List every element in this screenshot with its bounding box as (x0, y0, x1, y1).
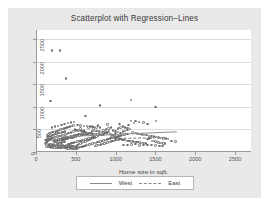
y-tick-label: 0 (30, 152, 36, 155)
y-tick-label: 1000 (39, 107, 45, 119)
data-point (92, 126, 94, 128)
y-tick-label: 1500 (39, 84, 45, 96)
data-point (70, 131, 72, 133)
x-tick (36, 152, 37, 155)
data-point (99, 104, 101, 106)
data-point (167, 138, 169, 140)
data-point (150, 144, 152, 146)
data-point (106, 123, 108, 125)
x-tick (235, 152, 236, 155)
gridline (37, 129, 251, 130)
x-tick (155, 152, 156, 155)
data-point (51, 131, 53, 133)
gridline (37, 84, 251, 85)
data-point (65, 77, 67, 79)
data-point (72, 130, 74, 132)
data-point (133, 122, 135, 124)
data-point (81, 132, 83, 134)
data-point (174, 140, 176, 142)
data-point (83, 125, 85, 127)
data-point (59, 49, 61, 51)
data-point (134, 120, 136, 122)
chart-title: Scatterplot with Regression−Lines (8, 14, 261, 23)
data-point (51, 126, 53, 128)
x-tick (195, 152, 196, 155)
data-point (146, 123, 148, 125)
data-point (134, 143, 136, 145)
data-point (138, 121, 140, 123)
data-point (118, 123, 120, 125)
y-tick (33, 84, 36, 85)
data-point (54, 125, 56, 127)
gridline (37, 39, 251, 40)
y-tick (33, 62, 36, 63)
data-point (49, 100, 51, 102)
data-point (60, 124, 62, 126)
data-point (130, 120, 132, 122)
x-tick (76, 152, 77, 155)
x-tick (116, 152, 117, 155)
data-point (73, 121, 75, 123)
data-point (77, 146, 79, 148)
y-tick-label: 500 (36, 129, 42, 138)
gridline (37, 107, 251, 108)
legend: West East (76, 176, 194, 190)
data-point (95, 126, 97, 128)
data-point (127, 124, 129, 126)
x-tick-label: 2000 (189, 156, 201, 162)
graph-region: Scatterplot with Regression−Lines 050010… (8, 8, 261, 198)
x-tick-label: 500 (71, 156, 80, 162)
data-point (122, 144, 124, 146)
data-point (158, 145, 160, 147)
data-point (130, 143, 132, 145)
x-tick-label: 1500 (149, 156, 161, 162)
gridline (37, 62, 251, 63)
plot-area (36, 30, 251, 152)
data-point (126, 127, 128, 129)
x-tick-label: 1000 (109, 156, 121, 162)
data-point (170, 140, 172, 142)
legend-label-east: East (168, 180, 180, 186)
x-tick-label: 0 (34, 156, 37, 162)
legend-label-west: West (119, 180, 133, 186)
data-point (63, 141, 65, 143)
data-point (64, 130, 66, 132)
x-tick-label: 2500 (229, 156, 241, 162)
data-point (142, 121, 144, 123)
x-axis-line (36, 151, 251, 152)
data-point (142, 144, 144, 146)
data-point (70, 121, 72, 123)
x-axis-title: Home size in sqft. (36, 168, 251, 175)
data-point (130, 99, 132, 101)
y-tick-label: 2500 (39, 39, 45, 51)
data-point (51, 49, 53, 51)
data-point (99, 126, 101, 128)
data-point (84, 115, 86, 117)
data-point (138, 144, 140, 146)
data-point (154, 106, 156, 108)
data-point (63, 123, 65, 125)
data-point (161, 145, 163, 147)
legend-key-east (139, 183, 161, 184)
legend-key-west (90, 183, 112, 184)
y-tick (33, 107, 36, 108)
data-point (126, 144, 128, 146)
data-point (155, 120, 157, 122)
data-point (79, 124, 81, 126)
data-point (154, 144, 156, 146)
data-point (67, 122, 69, 124)
y-tick-label: 2000 (39, 62, 45, 74)
data-point (57, 125, 59, 127)
data-point (76, 124, 78, 126)
data-point (164, 142, 166, 144)
y-tick (33, 39, 36, 40)
data-point (72, 124, 74, 126)
data-point (146, 144, 148, 146)
